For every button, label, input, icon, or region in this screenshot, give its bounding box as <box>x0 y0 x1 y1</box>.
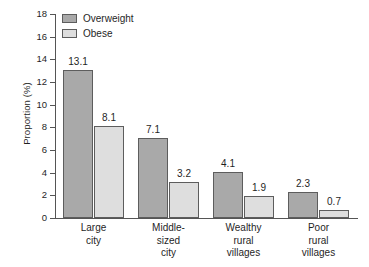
x-axis-label-poor-rural-villages: Poorruralvillages <box>274 222 364 260</box>
y-tick-2 <box>50 195 55 196</box>
bar-large-city-obese <box>94 126 124 218</box>
x-axis-label-line: Poor <box>274 222 364 235</box>
bar-chart: Proportion (%) 181614121086420 Overweigh… <box>0 0 369 267</box>
bar-large-city-overweight <box>63 70 93 218</box>
y-tick-label-6: 6 <box>17 145 47 155</box>
bar-wealthy-rural-villages-obese <box>244 196 274 218</box>
y-tick-8 <box>50 127 55 128</box>
y-tick-label-18: 18 <box>17 9 47 19</box>
y-tick-label-8: 8 <box>17 122 47 132</box>
bar-value-wealthy-rural-villages-overweight: 4.1 <box>211 159 245 169</box>
legend-label-overweight: Overweight <box>83 14 134 24</box>
bar-value-large-city-overweight: 13.1 <box>61 57 95 67</box>
y-tick-label-4: 4 <box>17 168 47 178</box>
legend-item-obese: Obese <box>62 26 134 41</box>
y-tick-label-12: 12 <box>17 77 47 87</box>
legend-swatch-obese <box>62 29 77 38</box>
y-tick-4 <box>50 173 55 174</box>
legend-swatch-overweight <box>62 14 77 23</box>
bar-value-middle-sized-city-obese: 3.2 <box>167 169 201 179</box>
y-tick-label-14: 14 <box>17 54 47 64</box>
y-tick-0 <box>50 218 55 219</box>
y-tick-label-10: 10 <box>17 100 47 110</box>
y-tick-18 <box>50 14 55 15</box>
bar-value-poor-rural-villages-overweight: 2.3 <box>286 179 320 189</box>
y-tick-14 <box>50 59 55 60</box>
legend-label-obese: Obese <box>83 29 112 39</box>
y-tick-16 <box>50 37 55 38</box>
y-tick-label-0: 0 <box>17 213 47 223</box>
x-axis-label-line: villages <box>274 247 364 260</box>
bar-wealthy-rural-villages-overweight <box>213 172 243 218</box>
x-axis-label-line: rural <box>274 235 364 248</box>
legend-item-overweight: Overweight <box>62 11 134 26</box>
legend: Overweight Obese <box>62 11 134 41</box>
y-tick-label-2: 2 <box>17 190 47 200</box>
bar-poor-rural-villages-obese <box>319 210 349 218</box>
bar-middle-sized-city-overweight <box>138 138 168 218</box>
bar-middle-sized-city-obese <box>169 182 199 218</box>
bar-value-middle-sized-city-overweight: 7.1 <box>136 125 170 135</box>
bar-poor-rural-villages-overweight <box>288 192 318 218</box>
y-axis-line <box>55 14 56 218</box>
bar-value-poor-rural-villages-obese: 0.7 <box>317 197 351 207</box>
y-tick-10 <box>50 105 55 106</box>
x-axis-line <box>55 218 358 219</box>
bar-value-large-city-obese: 8.1 <box>92 113 126 123</box>
y-tick-6 <box>50 150 55 151</box>
y-tick-label-16: 16 <box>17 32 47 42</box>
y-tick-12 <box>50 82 55 83</box>
bar-value-wealthy-rural-villages-obese: 1.9 <box>242 183 276 193</box>
